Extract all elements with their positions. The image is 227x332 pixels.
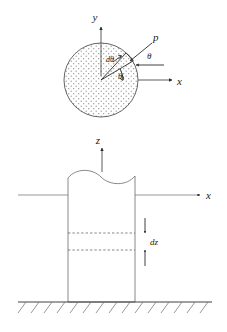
column-body	[68, 170, 135, 302]
x-axis-label-top: x	[176, 75, 182, 87]
pressure-label-p: p	[152, 31, 159, 43]
theta-outer-label: θ	[147, 51, 152, 61]
side-view-group: z x dz	[18, 134, 212, 313]
dz-label: dz	[150, 237, 159, 247]
z-axis-label: z	[95, 134, 101, 146]
d-theta-label: dθ	[106, 55, 114, 64]
y-axis-label: y	[92, 11, 98, 23]
ground-hatching	[18, 302, 208, 313]
top-view-group: y x p θ θ dθ	[64, 11, 182, 117]
engineering-diagram-figure: y x p θ θ dθ z x dz	[0, 0, 227, 332]
diagram-canvas: y x p θ θ dθ z x dz	[0, 0, 227, 332]
theta-inner-label: θ	[118, 71, 123, 81]
x-axis-label-side: x	[205, 189, 211, 201]
